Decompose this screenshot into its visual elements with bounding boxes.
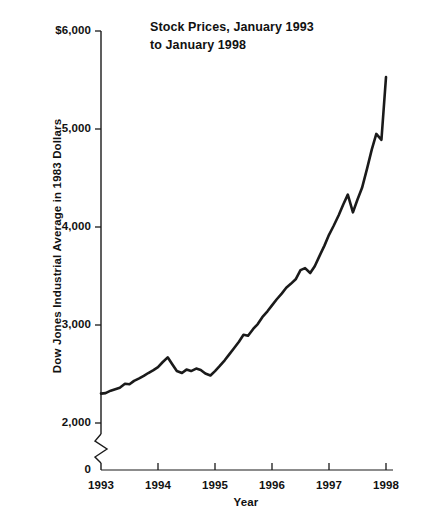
y-axis-break-icon (95, 434, 107, 463)
plot-area (0, 0, 435, 522)
stock-prices-chart-figure: Stock Prices, January 1993 to January 19… (0, 0, 435, 522)
data-series-line (101, 77, 386, 394)
